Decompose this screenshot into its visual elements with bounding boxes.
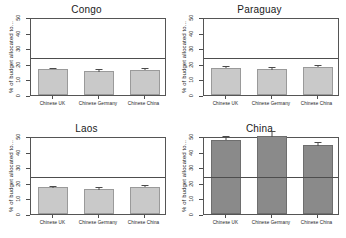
x-axis-tick (52, 96, 53, 99)
x-axis-tick-label: Chinese Germany (252, 101, 291, 106)
bar-group (204, 19, 338, 95)
bar-slot (211, 136, 241, 214)
y-axis-tick-label: 20 (16, 180, 22, 186)
panel-laos: Laos% of budget allocated to...010203040… (0, 119, 173, 238)
x-axis-tick-label: Chinese China (128, 101, 159, 106)
panel-china: China% of budget allocated to...01020304… (173, 119, 346, 238)
bar (257, 136, 287, 214)
y-axis-title: % of budget allocated to... (179, 18, 189, 96)
error-bar-cap (141, 185, 148, 186)
error-bar-cap (141, 68, 148, 69)
error-bar-cap (223, 136, 230, 137)
y-axis-tick-label: 20 (189, 180, 195, 186)
x-axis-tick-label: Chinese China (301, 101, 332, 106)
error-bar-cap (269, 131, 276, 132)
y-axis-tick-label: 50 (16, 15, 22, 21)
bar (38, 187, 68, 214)
x-axis-tick (225, 96, 226, 99)
x-axis-tick (317, 215, 318, 218)
x-axis-tick-label: Chinese Germany (252, 220, 291, 225)
y-axis-tick-label: 30 (189, 165, 195, 171)
bar-slot (303, 17, 333, 95)
plot-area (30, 137, 166, 215)
error-bar-cap (223, 66, 230, 67)
bar (303, 145, 333, 214)
y-axis-tick-label: 0 (16, 213, 22, 216)
panel-title: Laos (0, 123, 173, 134)
bar-slot (257, 136, 287, 214)
y-axis-tick-label: 10 (16, 196, 22, 202)
bar-slot (130, 136, 160, 214)
bar-slot (84, 136, 114, 214)
y-axis-tick-label: 40 (189, 30, 195, 36)
y-axis-title-label: % of budget allocated to... (8, 21, 14, 93)
bar-slot (211, 17, 241, 95)
x-axis-tick-label: Chinese China (301, 220, 332, 225)
panel-title: China (173, 123, 346, 134)
y-axis-title-label: % of budget allocated to... (8, 140, 14, 212)
x-axis-tick-label: Chinese UK (40, 101, 66, 106)
plot-area (30, 18, 166, 96)
error-bar-cap (314, 142, 321, 143)
y-axis-tick-label: 40 (16, 30, 22, 36)
x-axis-tick-label: Chinese UK (213, 101, 239, 106)
panel-title: Paraguay (173, 4, 346, 15)
bar-slot (303, 136, 333, 214)
y-axis-tick-label: 0 (189, 213, 195, 216)
y-axis-tick-label: 20 (189, 61, 195, 67)
x-axis-tick (98, 96, 99, 99)
x-axis-tick (225, 215, 226, 218)
bar-slot (84, 17, 114, 95)
reference-line (31, 177, 165, 178)
x-axis-tick (271, 96, 272, 99)
y-axis-tick-label: 10 (189, 196, 195, 202)
bar-slot (38, 17, 68, 95)
bar-slot (130, 17, 160, 95)
x-axis: Chinese UKChinese GermanyChinese China (30, 215, 166, 229)
x-axis: Chinese UKChinese GermanyChinese China (203, 215, 339, 229)
x-axis-tick-label: Chinese UK (213, 220, 239, 225)
bar-group (31, 138, 165, 214)
bar-slot (38, 136, 68, 214)
bar (38, 69, 68, 95)
error-bar-cap (269, 67, 276, 68)
y-axis-tick-label: 50 (189, 134, 195, 140)
y-axis-title-label: % of budget allocated to... (181, 140, 187, 212)
y-axis-tick-label: 0 (189, 94, 195, 97)
y-axis-title: % of budget allocated to... (179, 137, 189, 215)
error-bar-cap (314, 65, 321, 66)
bar (84, 71, 114, 95)
y-axis-tick-label: 30 (16, 46, 22, 52)
x-axis-tick (317, 96, 318, 99)
y-axis-title: % of budget allocated to... (6, 18, 16, 96)
bar (303, 67, 333, 95)
y-axis-tick-label: 10 (189, 77, 195, 83)
x-axis: Chinese UKChinese GermanyChinese China (203, 96, 339, 110)
bar (84, 189, 114, 214)
bar-group (204, 138, 338, 214)
y-axis-tick-label: 20 (16, 61, 22, 67)
x-axis-tick (144, 215, 145, 218)
y-axis-tick-label: 40 (16, 149, 22, 155)
bar (257, 69, 287, 95)
bar (211, 68, 241, 95)
y-axis-tick-label: 50 (16, 134, 22, 140)
y-axis-tick-label: 0 (16, 94, 22, 97)
panel-title: Congo (0, 4, 173, 15)
x-axis-tick (271, 215, 272, 218)
reference-line (204, 58, 338, 59)
reference-line (204, 177, 338, 178)
error-bar-cap (50, 68, 57, 69)
y-axis-tick-label: 30 (189, 46, 195, 52)
bar-group (31, 19, 165, 95)
x-axis-tick (52, 215, 53, 218)
x-axis-tick (98, 215, 99, 218)
error-bar-cap (96, 69, 103, 70)
y-axis-tick-label: 10 (16, 77, 22, 83)
bar-slot (257, 17, 287, 95)
reference-line (31, 58, 165, 59)
x-axis-tick-label: Chinese Germany (79, 220, 118, 225)
y-axis-title-label: % of budget allocated to... (181, 21, 187, 93)
x-axis-tick-label: Chinese UK (40, 220, 66, 225)
error-bar-cap (50, 186, 57, 187)
